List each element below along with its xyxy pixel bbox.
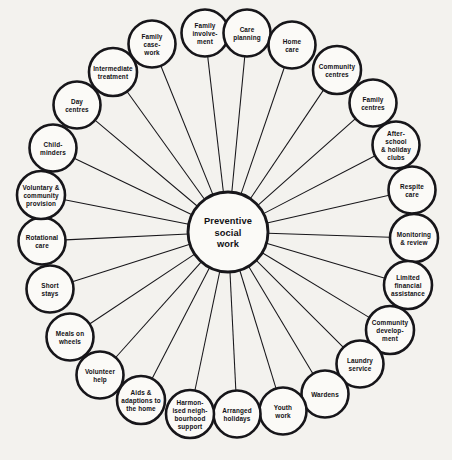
hub-preventive-social-work[interactable]: Preventivesocialwork — [188, 192, 268, 272]
node-respite-care[interactable]: Respitecare — [389, 167, 436, 214]
node-label-line: Family — [362, 96, 383, 104]
spoke-line-monitoring-review — [268, 233, 390, 237]
node-label-line: Aids & — [130, 389, 151, 396]
spoke-line-laundry-service — [256, 260, 343, 347]
node-after-school-holiday-clubs[interactable]: After-school& holidayclubs — [373, 122, 420, 169]
node-label-line: clubs — [387, 154, 405, 161]
node-label-line: Arranged — [222, 407, 251, 415]
node-label-line: & holiday — [381, 146, 411, 154]
node-label-line: work — [274, 412, 291, 419]
spoke-line-youth-work — [240, 270, 276, 388]
node-label-line: service — [349, 365, 372, 372]
spoke-line-community-centres — [250, 90, 323, 199]
node-label-line: work — [143, 49, 160, 56]
node-label-line: financial — [394, 282, 421, 289]
node-label-line: holidays — [224, 415, 251, 423]
spoke-line-family-involvement — [208, 56, 224, 192]
node-day-centres[interactable]: Daycentres — [54, 82, 101, 129]
node-rotational-care[interactable]: Rotationalcare — [19, 218, 66, 265]
node-community-centres[interactable]: Communitycentres — [313, 46, 361, 94]
spoke-line-respite-care — [267, 195, 389, 223]
node-short-stays[interactable]: Shortstays — [27, 266, 74, 313]
node-limited-financial-assistance[interactable]: Limitedfinancialassistance — [384, 261, 432, 309]
node-label-line: Meals on — [56, 330, 84, 337]
node-home-care[interactable]: Homecare — [269, 22, 316, 69]
node-label-line: ised neigh- — [172, 407, 207, 415]
node-label-line: treatment — [98, 73, 129, 80]
node-label-line: Day — [71, 98, 83, 106]
radial-diagram-canvas: Familyinvolve-mentCareplanningHomecareCo… — [0, 0, 452, 460]
node-care-planning[interactable]: Careplanning — [224, 10, 271, 57]
spoke-line-volunteer-help — [116, 262, 202, 358]
node-label-line: Monitoring — [397, 231, 431, 239]
node-label-line: bourhood — [175, 415, 206, 422]
node-label-line: ment — [197, 38, 214, 45]
node-label-line: Respite — [400, 183, 424, 191]
node-label-line: assistance — [391, 290, 425, 297]
node-label-line: & review — [400, 239, 427, 246]
node-label-line: Wardens — [311, 391, 339, 398]
node-label-line: Harmon- — [176, 399, 203, 406]
node-label-line: community — [23, 192, 59, 200]
node-label-line: provision — [26, 200, 56, 208]
node-family-involvement[interactable]: Familyinvolve-ment — [182, 10, 229, 57]
node-label-line: Community — [319, 63, 356, 71]
node-meals-on-wheels[interactable]: Meals onwheels — [47, 314, 94, 361]
node-label-line: adaptions to — [121, 397, 161, 405]
node-label-line: Intermediate — [93, 65, 133, 72]
node-harmonised-neighbourhood-support[interactable]: Harmon-ised neigh-bourhoodsupport — [166, 390, 214, 438]
node-label-line: Community — [372, 319, 409, 327]
node-family-centres[interactable]: Familycentres — [350, 80, 397, 127]
node-label-line: Short — [41, 282, 59, 289]
spoke-line-after-school-holiday-clubs — [264, 156, 376, 214]
node-youth-work[interactable]: Youthwork — [260, 388, 307, 435]
node-arranged-holidays[interactable]: Arrangedholidays — [214, 391, 261, 438]
node-label-line: help — [93, 376, 107, 384]
node-label-line: Youth — [274, 404, 292, 411]
spoke-line-day-centres — [95, 120, 197, 206]
spoke-line-meals-on-wheels — [90, 254, 195, 324]
node-label-line: care — [285, 46, 299, 53]
node-label-line: Rotational — [26, 234, 59, 241]
spoke-line-home-care — [241, 67, 284, 194]
node-label-line: Home — [283, 38, 302, 45]
node-label-line: Care — [240, 26, 255, 33]
spoke-line-arranged-holidays — [230, 272, 236, 391]
node-label-line: stays — [42, 290, 59, 298]
spoke-line-short-stays — [72, 244, 190, 282]
node-label-line: work — [216, 239, 240, 249]
node-label-line: the home — [126, 405, 156, 412]
preventive-social-work-diagram: Familyinvolve-mentCareplanningHomecareCo… — [0, 0, 452, 460]
node-label-line: minders — [40, 149, 66, 156]
node-wardens[interactable]: Wardens — [302, 371, 349, 418]
node-label-line: Family — [194, 22, 215, 30]
node-label-line: Preventive — [204, 216, 252, 226]
node-label-line: develop- — [376, 327, 403, 335]
node-label-line: wheels — [58, 338, 81, 345]
node-label-line: Limited — [396, 274, 420, 281]
spoke-line-wardens — [249, 266, 313, 374]
node-family-case-work[interactable]: Familycase-work — [129, 21, 176, 68]
node-label-line: Laundry — [347, 357, 373, 365]
spoke-line-community-development — [262, 253, 369, 318]
node-intermediate-treatment[interactable]: Intermediatetreatment — [89, 48, 137, 96]
node-monitoring-review[interactable]: Monitoring& review — [390, 214, 438, 262]
spoke-line-limited-financial-assistance — [266, 243, 385, 278]
node-label-line: centres — [361, 104, 385, 111]
node-label-line: involve- — [192, 30, 217, 37]
node-volunteer-help[interactable]: Volunteerhelp — [77, 352, 124, 399]
node-label-line: planning — [233, 34, 261, 42]
node-label-line: support — [178, 423, 203, 431]
node-label-line: centres — [65, 106, 89, 113]
node-label-line: After- — [387, 130, 405, 137]
spoke-line-care-planning — [232, 56, 245, 192]
node-label-line: care — [405, 191, 419, 198]
node-aids-adaptions-to-the-home[interactable]: Aids &adaptions tothe home — [117, 376, 165, 424]
hub-node: Preventivesocialwork — [188, 192, 268, 272]
node-label-line: Child- — [44, 141, 63, 148]
node-child-minders[interactable]: Child-minders — [30, 125, 77, 172]
node-voluntary-community-provision[interactable]: Voluntary &communityprovision — [17, 171, 65, 219]
node-label-line: case- — [144, 41, 161, 48]
spoke-line-voluntary-community-provision — [65, 200, 189, 225]
node-label-line: ment — [382, 335, 399, 342]
